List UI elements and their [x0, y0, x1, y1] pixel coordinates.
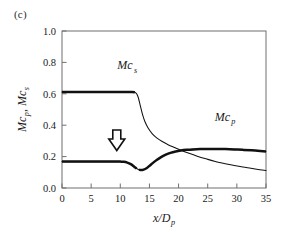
x-tick-label: 5: [89, 193, 94, 204]
plot-frame: [62, 31, 266, 188]
y-tick-label: 1.0: [43, 26, 56, 37]
y-tick-label: 0.8: [43, 57, 56, 68]
x-tick-label: 25: [202, 193, 213, 204]
y-axis-title: Mcp, Mcs: [15, 87, 31, 133]
x-tick-label: 10: [115, 193, 126, 204]
x-tick-label: 30: [232, 193, 243, 204]
y-tick-label: 0.4: [43, 120, 57, 131]
x-tick-label: 35: [261, 193, 272, 204]
line-chart: 051015202530350.00.20.40.60.81.0 Mcs Mcp…: [0, 0, 285, 241]
x-tick-label: 15: [144, 193, 155, 204]
x-axis-title: x/Dp: [152, 211, 175, 227]
y-tick-label: 0.6: [43, 89, 56, 100]
x-tick-label: 0: [59, 193, 64, 204]
panel-label: (c): [14, 8, 27, 20]
x-tick-label: 20: [173, 193, 184, 204]
y-tick-label: 0.2: [43, 151, 56, 162]
y-tick-label: 0.0: [43, 183, 56, 194]
figure-panel: (c) 051015202530350.00.20.40.60.81.0 Mcs…: [0, 0, 285, 241]
